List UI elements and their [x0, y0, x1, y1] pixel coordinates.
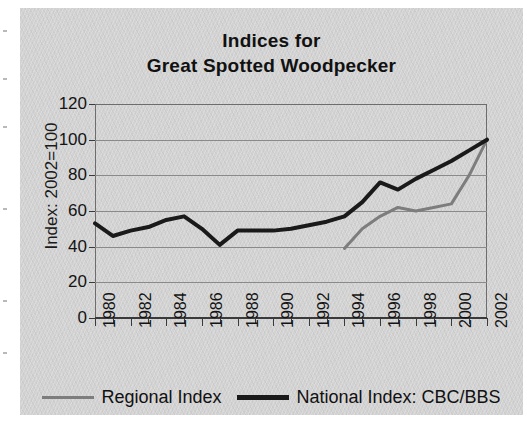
x-tick-mark-1982	[131, 318, 132, 326]
chart-figure: Indices for Great Spotted Woodpecker Ind…	[20, 8, 523, 415]
scan-artifact	[3, 352, 7, 354]
chart-title-line-2: Great Spotted Woodpecker	[20, 53, 523, 78]
legend-swatch-icon	[42, 396, 94, 399]
x-tick-mark-1980	[95, 318, 96, 326]
y-tick-label-80: 80	[43, 166, 87, 183]
x-tick-mark-1990	[273, 318, 274, 326]
y-tick-label-100: 100	[43, 131, 87, 148]
y-tick-label-60: 60	[43, 202, 87, 219]
chart-legend: Regional IndexNational Index: CBC/BBS	[20, 384, 523, 410]
y-axis-tick-labels: 020406080100120	[43, 104, 87, 318]
series-line-national-index-cbc-bbs	[95, 140, 487, 245]
x-tick-mark-1998	[416, 318, 417, 326]
x-tick-label-1998: 1998	[422, 292, 440, 328]
legend-entry-regional-index: Regional Index	[42, 387, 221, 408]
x-tick-mark-1996	[380, 318, 381, 326]
series-lines	[95, 104, 487, 318]
x-tick-label-2000: 2000	[457, 292, 475, 328]
x-tick-label-2002: 2002	[493, 292, 511, 328]
chart-title: Indices for Great Spotted Woodpecker	[20, 28, 523, 78]
x-tick-mark-2000	[451, 318, 452, 326]
x-tick-label-1990: 1990	[279, 292, 297, 328]
y-tick-label-120: 120	[43, 95, 87, 112]
x-tick-mark-1984	[166, 318, 167, 326]
x-tick-mark-2002	[487, 318, 488, 326]
scan-artifact	[3, 300, 7, 302]
x-tick-mark-1994	[344, 318, 345, 326]
series-line-regional-index	[344, 140, 487, 249]
x-tick-mark-1988	[238, 318, 239, 326]
scan-artifact	[3, 208, 7, 210]
x-tick-mark-1986	[202, 318, 203, 326]
x-tick-label-1988: 1988	[244, 292, 262, 328]
legend-label: Regional Index	[101, 387, 221, 408]
scan-artifact	[3, 78, 7, 80]
x-tick-label-1986: 1986	[208, 292, 226, 328]
scan-margin	[0, 0, 20, 423]
x-tick-label-1984: 1984	[172, 292, 190, 328]
scan-artifact	[3, 30, 7, 32]
x-tick-label-1980: 1980	[101, 292, 119, 328]
chart-title-line-1: Indices for	[20, 28, 523, 53]
legend-label: National Index: CBC/BBS	[296, 387, 500, 408]
plot-area	[95, 104, 487, 318]
y-tick-label-0: 0	[43, 309, 87, 326]
x-tick-label-1992: 1992	[315, 292, 333, 328]
x-tick-label-1996: 1996	[386, 292, 404, 328]
legend-entry-national-index-cbc-bbs: National Index: CBC/BBS	[237, 387, 500, 408]
x-axis-tick-labels: 1980198219841986198819901992199419961998…	[95, 326, 487, 388]
scan-artifact	[3, 126, 7, 128]
x-tick-label-1982: 1982	[137, 292, 155, 328]
y-tick-label-40: 40	[43, 238, 87, 255]
legend-swatch-icon	[237, 395, 289, 400]
y-tick-label-20: 20	[43, 273, 87, 290]
x-tick-label-1994: 1994	[350, 292, 368, 328]
x-tick-mark-1992	[309, 318, 310, 326]
